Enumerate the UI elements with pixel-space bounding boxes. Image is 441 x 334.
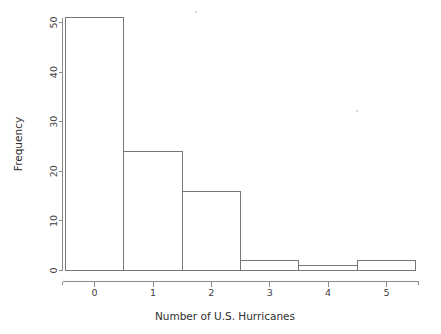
- x-tick-label: 4: [325, 287, 331, 298]
- y-axis-title: Frequency: [12, 117, 24, 171]
- y-tick-label: 0: [48, 267, 59, 273]
- x-tick-label: 3: [267, 287, 273, 298]
- bars-group: [65, 18, 415, 271]
- y-tick-label: 50: [48, 16, 59, 28]
- histogram-bar: [357, 261, 415, 271]
- x-tick-label: 1: [150, 287, 156, 298]
- x-tick-label: 5: [383, 287, 389, 298]
- histogram-bar: [182, 191, 240, 270]
- histogram-bar: [241, 261, 299, 271]
- histogram-figure: 01020304050 012345 Number of U.S. Hurric…: [0, 0, 441, 334]
- y-tick-label: 10: [48, 215, 59, 227]
- scan-speck: [195, 11, 197, 13]
- x-tick-group: 012345: [63, 282, 419, 299]
- histogram-bar: [124, 151, 182, 270]
- x-axis-title: Number of U.S. Hurricanes: [155, 310, 295, 322]
- y-axis: 01020304050: [48, 16, 63, 273]
- scan-speck: [356, 110, 358, 112]
- x-tick-label: 2: [208, 287, 214, 298]
- hurricane-frequency-histogram: 01020304050 012345 Number of U.S. Hurric…: [0, 0, 441, 334]
- x-tick-label: 0: [92, 287, 98, 298]
- x-axis: 012345: [63, 282, 419, 299]
- histogram-bar: [65, 18, 123, 271]
- histogram-bar: [299, 266, 357, 271]
- y-tick-label: 40: [48, 66, 59, 78]
- y-tick-label: 20: [48, 165, 59, 177]
- y-tick-group: 01020304050: [48, 16, 63, 273]
- y-tick-label: 30: [48, 116, 59, 128]
